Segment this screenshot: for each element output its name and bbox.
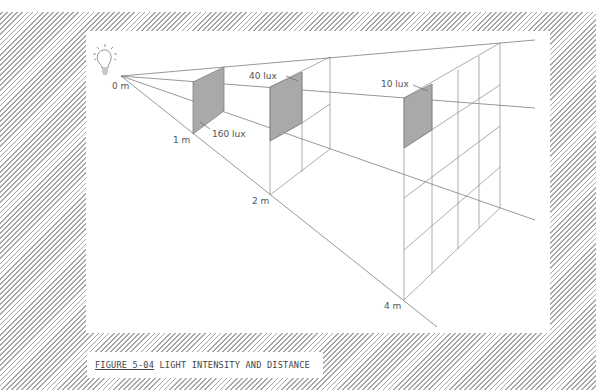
distance-label-2m: 2 m [252,196,269,206]
figure-title: LIGHT INTENSITY AND DISTANCE [160,360,310,370]
lux-label-1m: 160 lux [212,129,246,139]
figure-caption: FIGURE 5-04 LIGHT INTENSITY AND DISTANCE [87,352,323,378]
light-bulb-icon [93,44,117,74]
lux-label-2m: 40 lux [249,71,278,81]
ray-lower [121,76,535,220]
plane-4m [404,43,500,300]
distance-label-0m: 0 m [112,81,129,91]
figure-number: FIGURE 5-04 [95,360,154,370]
distance-label-4m: 4 m [384,301,401,311]
plane-2m [270,57,330,195]
plane-1m [193,67,224,134]
inverse-square-diagram: 0 m 1 m 2 m 4 m 160 lux 40 lux 10 lux [0,0,596,390]
distance-label-1m: 1 m [173,135,190,145]
lux-label-4m: 10 lux [381,79,410,89]
